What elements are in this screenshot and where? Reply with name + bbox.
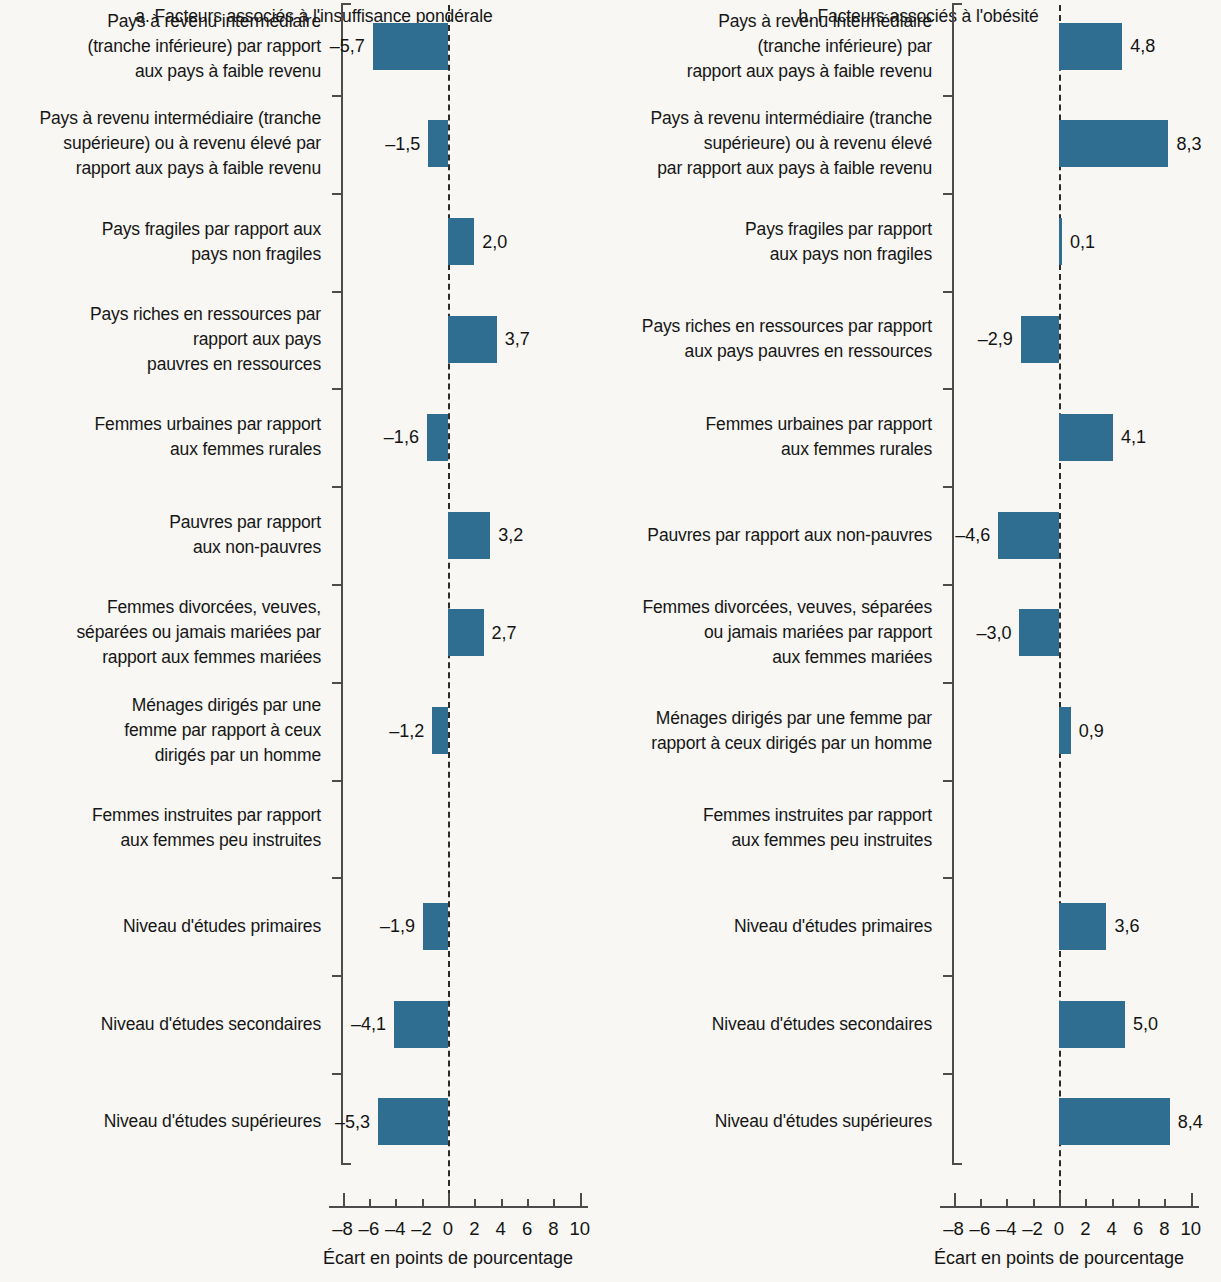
bar[interactable] [998,512,1059,559]
bar-value-label: –1,6 [375,427,419,447]
category-label: Femmes instruites par rapportaux femmes … [610,803,932,853]
figure-container: a. Facteurs associés à l'insuffisance po… [0,0,1221,1282]
bar[interactable] [1059,218,1062,265]
bar[interactable] [1059,414,1113,461]
x-axis-tick [422,1199,424,1208]
bar[interactable] [373,23,448,70]
x-axis-tick [501,1199,503,1208]
x-axis-tick [553,1199,555,1208]
x-axis-tick [448,1193,450,1208]
category-label: Pays fragiles par rapportaux pays non fr… [610,217,932,267]
bar-value-label: –1,9 [371,916,415,936]
category-label-line: rapport aux pays [193,329,321,349]
category-label-line: rapport aux femmes mariées [102,647,321,667]
category-label-line: Niveau d'études secondaires [712,1014,932,1034]
category-label-line: Ménages dirigés par une femme par [656,708,932,728]
bar[interactable] [1021,316,1059,363]
category-label: Femmes divorcées, veuves, séparéesou jam… [610,595,932,670]
category-axis-cap [952,3,962,5]
x-axis-tick [369,1199,371,1208]
bar[interactable] [1059,707,1071,754]
category-label: Femmes urbaines par rapportaux femmes ru… [0,412,321,462]
bar-value-label: 3,2 [498,525,523,545]
category-separator-tick [943,1073,954,1075]
category-label-line: Niveau d'études primaires [123,916,321,936]
category-label: Femmes urbaines par rapportaux femmes ru… [610,412,932,462]
category-label-line: Ménages dirigés par une [132,695,321,715]
x-axis-tick [980,1199,982,1208]
x-axis-tick [343,1193,345,1208]
category-axis-cap [952,1163,962,1165]
bar[interactable] [1019,609,1059,656]
x-axis-title: Écart en points de pourcentage [248,1248,648,1269]
category-label-line: Pauvres par rapport aux non-pauvres [647,525,932,545]
category-label: Pays fragiles par rapport auxpays non fr… [0,217,321,267]
bar-value-label: 8,3 [1176,134,1201,154]
category-label-line: pays non fragiles [191,244,321,264]
bar[interactable] [428,120,448,167]
bar[interactable] [448,218,474,265]
category-separator-tick [943,682,954,684]
category-label-line: aux femmes rurales [170,439,321,459]
category-label-line: Pays à revenu intermédiaire (tranche [650,108,932,128]
category-label: Niveau d'études supérieures [610,1109,932,1134]
category-label-line: Niveau d'études primaires [734,916,932,936]
bar[interactable] [448,512,490,559]
category-separator-tick [332,486,343,488]
bar-value-label: –1,2 [380,721,424,741]
category-separator-tick [943,975,954,977]
category-label-line: Niveau d'études supérieures [104,1111,321,1131]
category-label-line: aux femmes mariées [772,647,932,667]
category-axis-cap [341,3,351,5]
bar[interactable] [394,1001,448,1048]
category-label-line: aux pays à faible revenu [135,61,321,81]
category-label-line: Femmes divorcées, veuves, séparées [642,597,932,617]
bar-value-label: –5,3 [326,1112,370,1132]
bar[interactable] [1059,120,1168,167]
bar[interactable] [423,903,448,950]
x-axis-tick [1085,1199,1087,1208]
category-label-line: aux pays pauvres en ressources [685,341,932,361]
category-separator-tick [943,584,954,586]
category-label-line: aux femmes rurales [781,439,932,459]
x-axis-tick [1138,1199,1140,1208]
bar[interactable] [378,1098,448,1145]
category-label-line: supérieure) ou à revenu élevé [704,133,932,153]
bar[interactable] [1059,23,1122,70]
category-label-line: Pays à revenu intermédiaire [718,11,932,31]
category-separator-tick [943,486,954,488]
bar-value-label: 0,1 [1070,232,1095,252]
bar[interactable] [448,609,484,656]
bar-value-label: 5,0 [1133,1014,1158,1034]
category-label-line: Femmes instruites par rapport [703,805,932,825]
category-label-line: Femmes instruites par rapport [92,805,321,825]
bar[interactable] [448,316,497,363]
category-label-line: ou jamais mariées par rapport [704,622,932,642]
category-separator-tick [943,95,954,97]
category-label: Pays à revenu intermédiaire(tranche infé… [0,9,321,84]
bar-value-label: –4,6 [946,525,990,545]
category-label: Femmes instruites par rapportaux femmes … [0,803,321,853]
x-axis-tick-label: 10 [1171,1218,1211,1240]
category-label: Niveau d'études secondaires [0,1012,321,1037]
category-label: Pays à revenu intermédiaire (tranchesupé… [0,106,321,181]
category-label-line: par rapport aux pays à faible revenu [657,158,932,178]
bar[interactable] [432,707,448,754]
bar[interactable] [1059,1098,1170,1145]
category-label: Pays riches en ressources parrapport aux… [0,302,321,377]
bar[interactable] [427,414,448,461]
bar[interactable] [1059,903,1106,950]
category-separator-tick [332,682,343,684]
category-label: Ménages dirigés par une femme parrapport… [610,706,932,756]
category-label-line: Pays fragiles par rapport [745,219,932,239]
x-axis-tick [1033,1199,1035,1208]
category-label-line: Femmes urbaines par rapport [706,414,932,434]
bar-value-label: –4,1 [342,1014,386,1034]
bar[interactable] [1059,1001,1125,1048]
category-separator-tick [332,291,343,293]
category-label-line: rapport à ceux dirigés par un homme [651,733,932,753]
category-separator-tick [332,193,343,195]
bar-value-label: 2,0 [482,232,507,252]
category-label-line: dirigés par un homme [155,745,321,765]
category-separator-tick [943,780,954,782]
